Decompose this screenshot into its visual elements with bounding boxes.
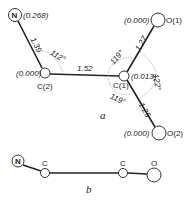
angle-c2-c1-o2: 119°	[109, 92, 128, 107]
bond-b-c-o	[128, 173, 147, 174]
atom-o1-label: O(1)	[166, 16, 182, 25]
atom-c1	[119, 71, 129, 81]
bond-length-c1-o2: 1.25	[137, 101, 153, 119]
atom-o2-label: O(2)	[167, 129, 183, 138]
molecule-diagram: N (0.268) (0.000) C(2) (0.013) C(1) (0.0…	[0, 0, 187, 200]
atom-b-c-right	[119, 169, 128, 178]
atom-b-o	[147, 168, 161, 182]
atom-c1-label: C(1)	[113, 81, 129, 90]
bond-c2-c1	[50, 74, 119, 76]
atom-c2-label: C(2)	[37, 82, 53, 91]
atom-b-c-right-label: C	[120, 159, 126, 168]
atom-c2	[40, 68, 50, 78]
atom-b-n-symbol: N	[15, 157, 21, 166]
angle-o1-c1-o2: 122°	[151, 73, 163, 92]
caption-a: a	[100, 109, 106, 121]
atom-o2	[152, 126, 166, 140]
atom-c2-charge: (0.000)	[16, 69, 42, 78]
angle-n-c2-c1: 112°	[49, 48, 68, 64]
atom-n-symbol: N	[12, 11, 18, 20]
angle-c2-c1-o1: 119°	[108, 48, 126, 67]
atom-o1	[151, 13, 165, 27]
diagram-b: N C C O b	[12, 155, 161, 195]
atom-o2-charge: (0.000)	[124, 129, 150, 138]
caption-b: b	[86, 183, 92, 195]
atom-n-charge: (0.268)	[23, 11, 49, 20]
atom-o1-charge: (0.000)	[124, 16, 150, 25]
atom-b-c-left-label: C	[42, 159, 48, 168]
bond-b-n-c	[23, 165, 41, 171]
atom-b-o-label: O	[151, 159, 157, 168]
bond-length-c2-c1: 1.52	[77, 64, 93, 73]
diagram-a: N (0.268) (0.000) C(2) (0.013) C(1) (0.0…	[9, 9, 184, 141]
atom-b-c-left	[41, 169, 50, 178]
